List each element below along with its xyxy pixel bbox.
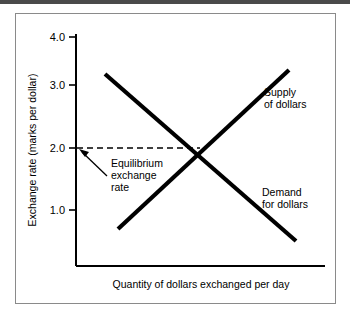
demand-label-line2: for dollars [262,198,308,210]
equilibrium-label-line1: Equilibrium [111,157,163,169]
equilibrium-label-line3: rate [111,181,129,193]
y-tick-label-3: 3.0 [50,79,65,91]
supply-label-line1: Supply [264,86,297,98]
y-axis-title: Exchange rate (marks per dollar) [26,74,38,227]
supply-label-line2: of dollars [264,98,307,110]
equilibrium-label-line2: exchange [111,169,157,181]
demand-label-line1: Demand [262,186,302,198]
exchange-rate-figure: 4.0 3.0 2.0 1.0 Exchange rate (marks per… [0,0,350,320]
x-axis-title: Quantity of dollars exchanged per day [113,278,291,290]
plot-area: 4.0 3.0 2.0 1.0 Exchange rate (marks per… [0,0,350,320]
equilibrium-arrow-head [79,149,89,157]
y-tick-label-4: 4.0 [50,31,65,43]
y-tick-label-2: 2.0 [50,142,65,154]
y-tick-label-1: 1.0 [50,204,65,216]
